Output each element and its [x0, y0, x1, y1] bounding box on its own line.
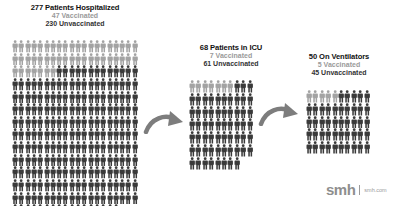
person-icon: [247, 131, 253, 144]
person-icon: [132, 166, 138, 179]
hospitalized-unvaccinated: 230 Unvaccinated: [0, 20, 150, 28]
person-icon: [364, 90, 370, 103]
hospitalized-title: 277 Patients Hospitalized 47 Vaccinated …: [0, 4, 150, 28]
person-icon: [364, 103, 370, 116]
ventilators-title: 50 On Ventilators 5 Vaccinated 45 Unvacc…: [284, 53, 394, 77]
person-icon: [113, 204, 119, 206]
hospitalized-vaccinated: 47 Vaccinated: [0, 12, 150, 20]
infographic: 277 Patients Hospitalized 47 Vaccinated …: [0, 0, 401, 206]
icu-headline: 68 Patients in ICU: [176, 44, 286, 52]
person-icon: [364, 141, 370, 154]
person-icon: [247, 80, 253, 93]
person-icon: [132, 192, 138, 205]
person-icon: [132, 40, 138, 53]
person-icon: [247, 118, 253, 131]
person-icon: [247, 106, 253, 119]
ventilators-headline: 50 On Ventilators: [284, 53, 394, 61]
icu-vaccinated: 7 Vaccinated: [176, 52, 286, 60]
person-icon: [132, 141, 138, 154]
person-icon: [132, 53, 138, 66]
icu-unvaccinated: 61 Unvaccinated: [176, 60, 286, 68]
ventilators-unvaccinated: 45 Unvaccinated: [284, 69, 394, 77]
hospitalized-headline: 277 Patients Hospitalized: [0, 4, 150, 12]
person-icon: [132, 179, 138, 192]
person-icon: [364, 128, 370, 141]
icu-title: 68 Patients in ICU 7 Vaccinated 61 Unvac…: [176, 44, 286, 68]
person-icon: [132, 78, 138, 91]
person-icon: [364, 116, 370, 129]
person-icon: [234, 157, 240, 170]
logo-divider: [359, 185, 360, 195]
icu-person-grid: [189, 80, 253, 156]
ventilators-person-grid: [306, 90, 370, 145]
ventilators-vaccinated: 5 Vaccinated: [284, 61, 394, 69]
logo-wordmark: smh: [326, 181, 355, 198]
hospitalized-person-grid: [12, 40, 138, 186]
person-icon: [132, 128, 138, 141]
person-icon: [132, 154, 138, 167]
person-icon: [132, 103, 138, 116]
brand-domain: smh.com: [364, 187, 386, 193]
curved-arrow-icon: [143, 108, 185, 134]
person-icon: [132, 91, 138, 104]
brand-logo: smh smh.com: [326, 181, 387, 198]
person-icon: [247, 93, 253, 106]
person-icon: [132, 116, 138, 129]
curved-arrow-icon: [258, 100, 300, 126]
person-icon: [132, 65, 138, 78]
person-icon: [247, 144, 253, 157]
